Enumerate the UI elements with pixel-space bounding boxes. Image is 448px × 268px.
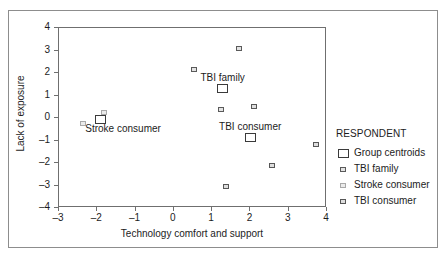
marker-glyph (340, 167, 346, 172)
marker-glyph (338, 149, 349, 158)
x-tick (211, 207, 212, 211)
data-point-tbi-family (191, 67, 197, 72)
legend-item[interactable]: Group centroids (336, 145, 440, 161)
x-tick (135, 207, 136, 211)
data-point-stroke-consumer (101, 110, 107, 115)
y-tick-label: –4 (28, 201, 50, 212)
y-tick (54, 27, 58, 28)
y-tick (54, 140, 58, 141)
data-point-tbi-family (218, 107, 224, 112)
x-tick (96, 207, 97, 211)
legend-label: TBI family (354, 163, 398, 175)
y-tick-label: 0 (28, 111, 50, 122)
x-tick (173, 207, 174, 211)
data-point-tbi-consumer (251, 104, 257, 109)
legend: RESPONDENT Group centroidsTBI familyStro… (336, 128, 440, 209)
data-point-group-centroids (245, 133, 256, 142)
x-tick-label: 1 (196, 212, 226, 224)
legend-label: Stroke consumer (354, 179, 430, 191)
data-point-tbi-consumer (313, 142, 319, 147)
x-tick (326, 207, 327, 211)
y-tick-label: –1 (28, 134, 50, 145)
y-tick (54, 207, 58, 208)
marker-glyph (340, 199, 346, 204)
y-tick (54, 185, 58, 186)
y-tick (54, 50, 58, 51)
x-tick-label: 3 (273, 212, 303, 224)
x-tick (249, 207, 250, 211)
x-tick-label: –1 (120, 212, 150, 224)
legend-marker-icon (336, 149, 350, 158)
y-tick-label: 1 (28, 89, 50, 100)
scatter-chart: Lack of exposure Technology comfort and … (0, 0, 448, 268)
y-tick-label: 2 (28, 66, 50, 77)
legend-marker-icon (336, 167, 350, 172)
y-tick-label: –2 (28, 156, 50, 167)
data-point-tbi-consumer (269, 163, 275, 168)
legend-marker-icon (336, 199, 350, 204)
x-tick-label: 0 (158, 212, 188, 224)
y-tick-label: –3 (28, 179, 50, 190)
legend-item[interactable]: Stroke consumer (336, 177, 440, 193)
x-tick-label: –2 (81, 212, 111, 224)
y-tick (54, 72, 58, 73)
annotation-label: Stroke consumer (85, 123, 161, 134)
x-tick (288, 207, 289, 211)
x-axis-label: Technology comfort and support (58, 228, 326, 239)
y-tick-label: 4 (28, 21, 50, 32)
y-tick-label: 3 (28, 44, 50, 55)
x-tick-label: –3 (43, 212, 73, 224)
x-tick (58, 207, 59, 211)
annotation-label: TBI family (200, 72, 244, 83)
legend-title: RESPONDENT (336, 128, 440, 139)
legend-label: TBI consumer (354, 195, 416, 207)
data-point-tbi-family (236, 46, 242, 51)
legend-item[interactable]: TBI consumer (336, 193, 440, 209)
marker-glyph (340, 183, 346, 188)
annotation-label: TBI consumer (219, 121, 281, 132)
y-tick (54, 95, 58, 96)
y-tick (54, 117, 58, 118)
legend-marker-icon (336, 183, 350, 188)
y-axis-label: Lack of exposure (15, 44, 26, 184)
legend-item[interactable]: TBI family (336, 161, 440, 177)
legend-label: Group centroids (354, 147, 425, 159)
data-point-group-centroids (217, 84, 228, 93)
data-point-tbi-consumer (223, 184, 229, 189)
legend-items: Group centroidsTBI familyStroke consumer… (336, 145, 440, 209)
x-tick-label: 2 (234, 212, 264, 224)
y-tick (54, 162, 58, 163)
x-tick-label: 4 (311, 212, 341, 224)
